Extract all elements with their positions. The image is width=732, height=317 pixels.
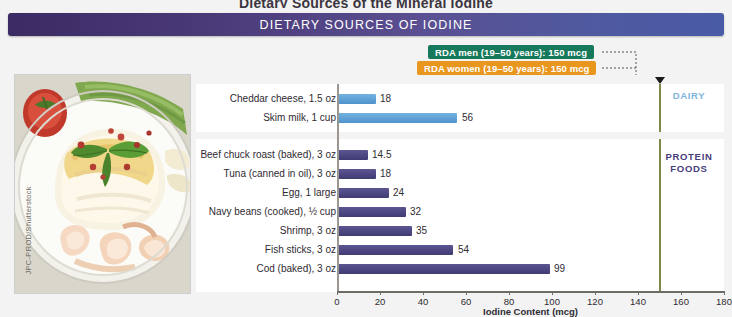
bar-label: Tuna (canned in oil), 3 oz: [224, 165, 336, 183]
bar-value: 54: [458, 241, 469, 259]
bar-label: Shrimp, 3 oz: [280, 222, 336, 240]
food-photo-image: [15, 75, 190, 293]
bar-value: 18: [380, 90, 391, 108]
group-label-protein: PROTEIN FOODS: [660, 151, 718, 175]
x-axis-title: Iodine Content (mcg): [337, 306, 724, 317]
bar-row: Beef chuck roast (baked), 3 oz 14.5: [196, 146, 724, 164]
photo-credit: JPC-PROD/Shutterstock: [24, 85, 33, 275]
bar-value: 99: [554, 260, 565, 278]
bar-label: Cod (baked), 3 oz: [257, 260, 337, 278]
x-tick: [466, 291, 467, 295]
bar-protein-5: [337, 245, 453, 255]
x-tick: [423, 291, 424, 295]
bar-label: Fish sticks, 3 oz: [265, 241, 336, 259]
x-tick: [552, 291, 553, 295]
bar-label: Skim milk, 1 cup: [263, 109, 336, 127]
x-tick: [681, 291, 682, 295]
bar-row: Cheddar cheese, 1.5 oz 18: [196, 90, 724, 108]
bar-protein-4: [337, 226, 412, 236]
rda-leader-lines: [600, 45, 660, 79]
bar-label: Cheddar cheese, 1.5 oz: [230, 90, 336, 108]
group-label-protein-line1: PROTEIN: [660, 151, 718, 163]
bar-row: Navy beans (cooked), ½ cup 32: [196, 203, 724, 221]
banner: DIETARY SOURCES OF IODINE: [8, 13, 724, 36]
bar-protein-3: [337, 207, 406, 217]
bar-protein-2: [337, 188, 389, 198]
x-tick: [509, 291, 510, 295]
infographic-root: Dietary Sources of the Mineral Iodine DI…: [0, 0, 732, 317]
bar-value: 18: [380, 165, 391, 183]
bar-label: Beef chuck roast (baked), 3 oz: [200, 146, 336, 164]
bar-value: 24: [393, 184, 404, 202]
group-label-dairy: DAIRY: [660, 90, 718, 102]
bar-dairy-0: [337, 94, 376, 104]
chart-plot-area: Cheddar cheese, 1.5 oz 18 Skim milk, 1 c…: [196, 84, 724, 292]
x-axis: [337, 291, 724, 293]
bar-label: Egg, 1 large: [282, 184, 336, 202]
bar-protein-0: [337, 150, 368, 160]
bar-row: Cod (baked), 3 oz 99: [196, 260, 724, 278]
x-tick: [724, 291, 725, 295]
bar-row: Skim milk, 1 cup 56: [196, 109, 724, 127]
bar-dairy-1: [337, 113, 457, 123]
rda-men-badge: RDA men (19–50 years): 150 mcg: [428, 45, 594, 59]
bar-value: 56: [462, 109, 473, 127]
x-tick: [595, 291, 596, 295]
bar-row: Shrimp, 3 oz 35: [196, 222, 724, 240]
x-tick: [638, 291, 639, 295]
bar-row: Tuna (canned in oil), 3 oz 18: [196, 165, 724, 183]
bar-row: Egg, 1 large 24: [196, 184, 724, 202]
rda-arrow-icon: [655, 77, 665, 84]
banner-title: DIETARY SOURCES OF IODINE: [8, 13, 724, 36]
bar-value: 14.5: [372, 146, 391, 164]
bar-protein-6: [337, 264, 550, 274]
x-tick: [380, 291, 381, 295]
rda-women-badge: RDA women (19–50 years): 150 mcg: [417, 61, 596, 75]
bar-value: 35: [416, 222, 427, 240]
bar-label: Navy beans (cooked), ½ cup: [209, 203, 336, 221]
bar-row: Fish sticks, 3 oz 54: [196, 241, 724, 259]
food-photo: JPC-PROD/Shutterstock: [14, 74, 191, 294]
bar-protein-1: [337, 169, 376, 179]
y-axis: [337, 84, 339, 292]
group-label-protein-line2: FOODS: [660, 163, 718, 175]
bar-value: 32: [410, 203, 421, 221]
x-tick: [337, 291, 338, 295]
page-title: Dietary Sources of the Mineral Iodine: [0, 0, 732, 8]
